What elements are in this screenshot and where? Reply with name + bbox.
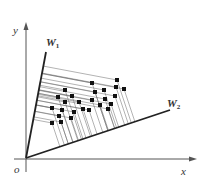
data-point (93, 90, 97, 94)
data-point (106, 107, 110, 111)
w1-label-main: W (46, 36, 56, 48)
projection-to-w2-line (116, 87, 128, 124)
projection-diagram: y x o W1 W2 (0, 0, 209, 181)
data-point (77, 100, 81, 104)
w1-label-sub: 1 (56, 42, 60, 50)
data-point (114, 85, 118, 89)
data-point (59, 120, 63, 124)
data-point (103, 97, 107, 101)
projection-guide-lines (33, 66, 135, 147)
data-point (72, 110, 76, 114)
data-point (60, 108, 64, 112)
data-point (109, 102, 113, 106)
w1-direction-line (26, 52, 46, 158)
y-axis-label: y (13, 25, 18, 36)
data-point (56, 95, 60, 99)
x-axis-label: x (181, 166, 186, 177)
projection-to-w1-line (42, 74, 124, 89)
data-point (102, 88, 106, 92)
data-point (98, 103, 102, 107)
projection-to-w1-line (42, 73, 116, 87)
data-point (69, 116, 73, 120)
projection-to-w1-line (35, 111, 71, 118)
w1-label: W1 (46, 37, 59, 50)
data-point (113, 94, 117, 98)
data-point (122, 87, 126, 91)
data-point (63, 100, 67, 104)
x-axis-arrow-icon (189, 157, 197, 162)
diagram-canvas (0, 0, 209, 181)
projection-to-w2-line (52, 123, 60, 147)
w2-label: W2 (167, 98, 180, 111)
projection-to-w2-line (83, 109, 92, 136)
data-point (90, 81, 94, 85)
projection-to-w1-line (35, 111, 59, 116)
data-point (87, 108, 91, 112)
w2-label-sub: 2 (177, 103, 181, 111)
w2-direction-line (26, 110, 170, 158)
data-point (50, 121, 54, 125)
projection-to-w1-line (34, 117, 61, 122)
projection-to-w2-line (111, 104, 119, 127)
data-point (115, 78, 119, 82)
origin-label: o (14, 164, 20, 175)
projection-to-w2-line (62, 110, 73, 142)
data-point (70, 94, 74, 98)
projection-to-w2-line (117, 80, 131, 123)
data-point (90, 98, 94, 102)
w2-label-main: W (167, 97, 177, 109)
projection-to-w1-line (43, 66, 117, 80)
y-axis-arrow-icon (24, 22, 29, 30)
data-point (57, 114, 61, 118)
data-point (81, 107, 85, 111)
data-point (50, 106, 54, 110)
projection-to-w1-line (36, 105, 62, 110)
projection-to-w1-line (39, 90, 111, 104)
data-point (63, 88, 67, 92)
